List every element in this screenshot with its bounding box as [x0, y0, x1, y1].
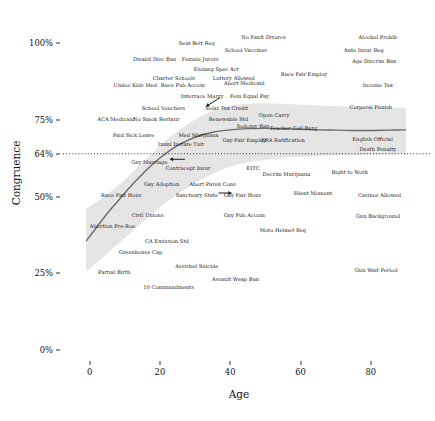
point-label: No Smok Restaur: [133, 116, 179, 122]
point-label: No Fault Divorce: [241, 34, 286, 40]
point-label: Seat Belt Req: [179, 40, 215, 46]
y-tick-mark: [56, 153, 60, 154]
point-label: Assisted Suicide: [175, 263, 218, 269]
point-label: ERA Ratification: [261, 137, 305, 143]
x-tick-label: 40: [225, 367, 236, 377]
point-label: Right to Work: [331, 169, 368, 175]
point-label: Casinos Allowed: [358, 192, 401, 198]
y-tick-mark: [56, 350, 60, 351]
scatter-chart: 0%25%50%64%75%100% 020406080 Seat Belt R…: [0, 0, 435, 421]
x-tick-mark: [300, 361, 301, 365]
point-label: School Vaccines: [225, 47, 267, 53]
point-label: CA Emission Std: [145, 238, 189, 244]
point-label: Sodomy Ban: [237, 123, 270, 129]
x-tick-mark: [159, 361, 160, 365]
point-label: Corporal Punish: [349, 104, 392, 110]
point-label: Gay Pub Accom: [224, 212, 265, 218]
y-tick-label: 64%: [34, 149, 53, 159]
point-label: Gun Background: [356, 213, 400, 219]
point-label: Abort Medicaid: [224, 80, 265, 86]
x-tick-mark: [89, 361, 90, 365]
point-label: Race Fair Employ: [281, 71, 328, 77]
y-tick-mark: [56, 120, 60, 121]
y-tick-label: 100%: [29, 38, 53, 48]
point-label: Contracept Insur: [166, 165, 211, 171]
point-label: Sanctuary State: [176, 192, 218, 198]
y-tick-label: 25%: [34, 268, 53, 278]
point-label: Charter Schools: [153, 75, 196, 81]
point-label: 10 Commandments: [143, 284, 194, 290]
x-tick-label: 0: [87, 367, 92, 377]
point-label: Med Marijuana: [178, 132, 218, 138]
point-label: Gay Adoption: [144, 181, 180, 187]
y-tick-mark: [56, 273, 60, 274]
point-label: Assault Weap Ban: [212, 276, 259, 282]
point-label: Abort Paren Cons: [189, 181, 235, 187]
x-tick-label: 60: [295, 367, 306, 377]
point-label: Open Carry: [259, 112, 290, 118]
y-tick-mark: [56, 196, 60, 197]
x-tick-label: 80: [365, 367, 376, 377]
point-label: Civil Unions: [132, 212, 164, 218]
point-label: Solar Tax Credit: [205, 105, 248, 111]
point-label: Disabil Disc Ban: [133, 56, 176, 62]
x-tick-label: 20: [155, 367, 166, 377]
point-label: Abortion Pre-Roe: [90, 223, 135, 229]
point-label: Greenhouse Cap: [119, 249, 163, 255]
x-tick-mark: [370, 361, 371, 365]
point-label: Alcohol Prohib: [359, 34, 398, 40]
point-label: Teacher Coll Barg: [270, 125, 317, 131]
point-label: Immi Instate Tuit: [158, 141, 204, 147]
y-tick-label: 75%: [34, 115, 53, 125]
point-label: Paid Sick Leave: [113, 132, 155, 138]
point-label: Death Penalty: [359, 146, 396, 152]
point-label: Income Tax: [363, 82, 393, 88]
point-label: Undoc Kids Med: [114, 82, 158, 88]
point-label: Silent Moment: [293, 190, 332, 196]
point-label: Gay Marriage: [131, 159, 167, 165]
y-axis-title: Congruence: [10, 140, 22, 205]
point-label: Decrim Marijuana: [263, 171, 311, 177]
x-axis-title: Age: [229, 388, 250, 400]
x-tick-mark: [230, 361, 231, 365]
y-tick-label: 50%: [34, 192, 53, 202]
point-label: Fem Equal Pay: [230, 93, 269, 99]
point-label: Gay Fair Hous: [224, 192, 262, 198]
point-label: English Official: [352, 136, 393, 142]
point-label: Race Pub Accom: [161, 82, 205, 88]
annotation-arrow-icon: [170, 157, 185, 161]
point-label: Female Jurors: [182, 56, 219, 62]
point-label: Moto Helmet Req: [260, 227, 306, 233]
point-label: Auto Insur Req: [344, 47, 384, 53]
point-label: Race Fair Hous: [101, 192, 142, 198]
y-tick-mark: [56, 43, 60, 44]
point-label: Endang Spec Act: [194, 66, 239, 72]
y-tick-label: 0%: [40, 345, 53, 355]
point-label: School Vouchers: [142, 105, 186, 111]
point-label: Interrace Marry: [181, 93, 224, 99]
point-label: Gay-Fair Employ: [222, 137, 266, 143]
point-label: Gun Wait Period: [355, 267, 398, 273]
point-label: Partial Birth: [98, 269, 130, 275]
point-label: EITC: [246, 165, 259, 171]
point-label: Renewable Std: [209, 116, 249, 122]
point-label: Age Discrim Ban: [352, 58, 396, 64]
point-label: ACA Medicaid: [97, 116, 134, 122]
